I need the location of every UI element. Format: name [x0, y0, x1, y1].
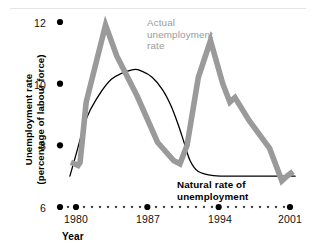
x-tick-label-1994: 1994	[200, 213, 240, 225]
series-annotation-actual: Actual unemployment rate	[147, 17, 242, 52]
x-tick-label-2001: 2001	[270, 213, 310, 225]
series-annotation-natural-line1: Natural rate of	[177, 179, 246, 190]
x-axis-dotted-baseline	[59, 206, 293, 208]
y-axis-title-line1: Unemployment rate	[23, 74, 34, 165]
y-axis-tick-dots	[57, 19, 63, 210]
x-axis-title: Year	[62, 231, 84, 242]
y-tick-label-6: 6	[26, 202, 46, 214]
series-annotation-natural: Natural rate of unemployment	[177, 179, 297, 202]
y-axis-title: Unemployment rate (percentage of labour …	[23, 40, 46, 200]
x-tick-label-1987: 1987	[128, 213, 168, 225]
series-annotation-actual-line1: Actual	[147, 17, 175, 28]
x-tick-label-1980: 1980	[56, 213, 96, 225]
series-annotation-actual-line3: rate	[147, 40, 164, 51]
y-axis-title-line2: (percentage of labour force)	[34, 54, 45, 184]
y-tick-label-12: 12	[26, 17, 46, 29]
series-annotation-actual-line2: unemployment	[147, 29, 213, 40]
unemployment-chart-figure: 12 10 8 6 1980 1987 1994 2001 Unemployme…	[0, 0, 316, 249]
series-annotation-natural-line2: unemployment	[177, 191, 248, 202]
